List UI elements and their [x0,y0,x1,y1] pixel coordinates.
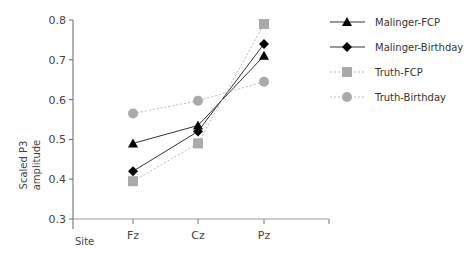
y-tick-label: 0.3 [49,213,67,226]
x-tick-label: Fz [127,229,139,242]
y-axis-label-line2: amplitude [31,140,42,191]
y-tick-label: 0.4 [49,173,67,186]
series-line [133,44,264,171]
legend-item: Truth-Birthday [330,92,446,103]
legend-label: Malinger-FCP [375,17,440,28]
legend: Malinger-FCPMalinger-BirthdayTruth-FCPTr… [330,17,463,103]
legend-item: Truth-FCP [330,67,423,78]
line-chart: 0.30.40.50.60.70.8FzCzPz Malinger-FCPMal… [0,0,476,260]
legend-item: Malinger-FCP [330,17,440,28]
series-truth-birthday [128,77,269,119]
y-axis-label-line1: Scaled P3 [18,141,29,190]
diamond-marker-icon [128,166,138,176]
square-marker-icon [259,19,269,29]
legend-diamond-icon [342,42,352,52]
legend-item: Malinger-Birthday [330,42,463,53]
circle-marker-icon [259,77,269,87]
legend-square-icon [342,67,352,77]
x-tick-label: Cz [191,229,205,242]
circle-marker-icon [193,96,203,106]
series-group [128,19,269,186]
square-marker-icon [193,138,203,148]
y-tick-label: 0.5 [49,133,67,146]
x-tick-label: Pz [258,229,271,242]
legend-label: Malinger-Birthday [375,42,463,53]
legend-label: Truth-Birthday [374,92,446,103]
x-axis-label: Site [75,236,94,247]
y-tick-label: 0.8 [49,14,67,27]
legend-circle-icon [342,92,352,102]
y-tick-label: 0.7 [49,54,67,67]
triangle-marker-icon [259,51,269,60]
square-marker-icon [128,176,138,186]
legend-label: Truth-FCP [374,67,423,78]
series-malinger-birthday [128,39,269,176]
diamond-marker-icon [259,39,269,49]
y-tick-label: 0.6 [49,94,67,107]
circle-marker-icon [128,109,138,119]
